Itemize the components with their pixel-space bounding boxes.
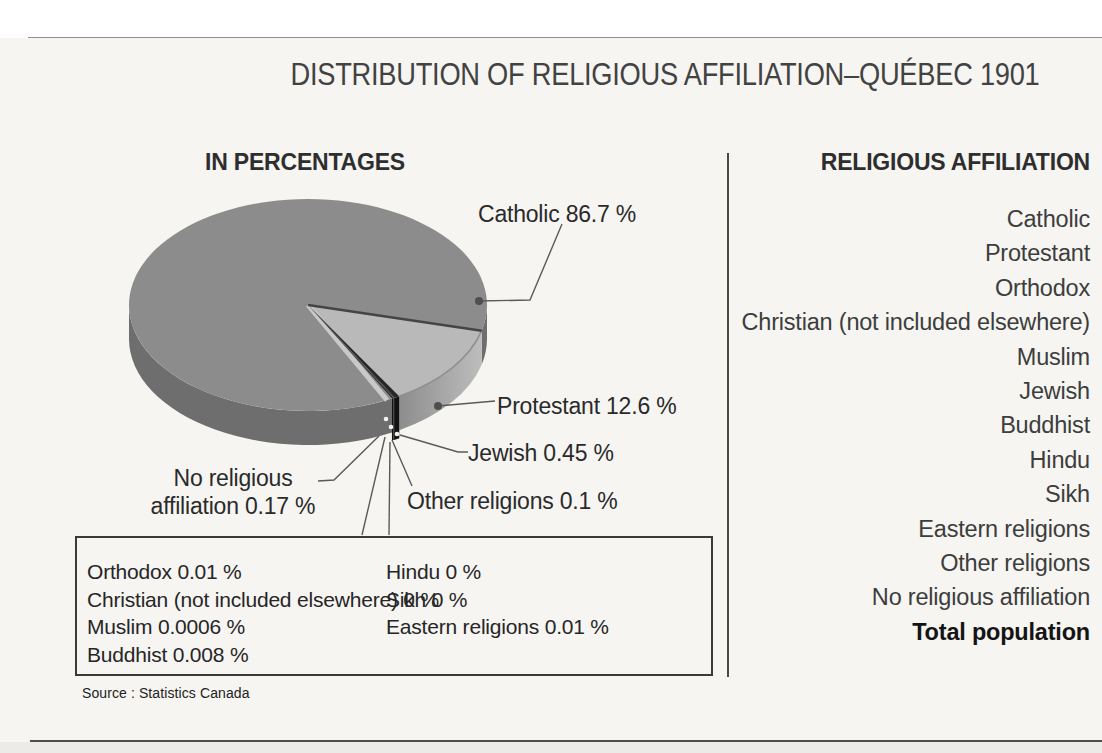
minor-religion-entry: Buddhist 0.008 % — [87, 641, 439, 669]
affiliation-total-row: Total population — [742, 615, 1091, 649]
affiliation-list-item: Jewish — [742, 374, 1091, 408]
callout-no-religious-affiliation: No religious affiliation 0.17 % — [145, 464, 321, 520]
affiliation-list-item: Catholic — [742, 202, 1091, 236]
affiliation-list-item: Muslim — [742, 340, 1091, 374]
minor-religions-right-column: Hindu 0 %Sikh 0 %Eastern religions 0.01 … — [386, 558, 609, 641]
callout-protestant: Protestant 12.6 % — [497, 393, 676, 420]
affiliation-list-item: Other religions — [742, 546, 1091, 580]
minor-religion-entry: Eastern religions 0.01 % — [386, 613, 609, 641]
affiliation-list-item: Orthodox — [742, 271, 1091, 305]
callout-other-religions: Other religions 0.1 % — [407, 488, 618, 515]
affiliation-list-item: Christian (not included elsewhere) — [742, 305, 1091, 339]
affiliation-list: CatholicProtestantOrthodoxChristian (not… — [742, 202, 1091, 649]
callout-jewish: Jewish 0.45 % — [468, 440, 614, 467]
affiliation-items: CatholicProtestantOrthodoxChristian (not… — [742, 202, 1091, 615]
callout-no-religious-line2: affiliation 0.17 % — [145, 492, 321, 520]
scanned-textbook-page: { "page": { "title": "DISTRIBUTION OF RE… — [0, 0, 1102, 753]
affiliation-list-item: Eastern religions — [742, 512, 1091, 546]
affiliation-list-item: Buddhist — [742, 408, 1091, 442]
callout-no-religious-line1: No religious — [145, 464, 321, 492]
callout-catholic: Catholic 86.7 % — [478, 201, 636, 228]
affiliation-list-item: Protestant — [742, 236, 1091, 270]
source-note: Source : Statistics Canada — [82, 685, 250, 701]
minor-religion-entry: Hindu 0 % — [386, 558, 609, 586]
affiliation-list-item: Hindu — [742, 443, 1091, 477]
minor-religion-entry: Sikh 0 % — [386, 586, 609, 614]
minor-religions-box: Orthodox 0.01 %Christian (not included e… — [75, 536, 713, 676]
affiliation-list-item: Sikh — [742, 477, 1091, 511]
affiliation-list-item: No religious affiliation — [742, 580, 1091, 614]
